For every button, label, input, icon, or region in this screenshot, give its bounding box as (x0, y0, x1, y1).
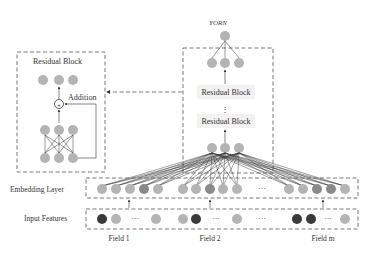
svg-text:+: + (57, 102, 61, 108)
node (38, 75, 48, 85)
residual-block-detail-title: Residual Block (33, 57, 82, 66)
svg-text:···: ··· (324, 214, 332, 223)
input-features-layer: Input Features ··· ··· ··· ··· (24, 209, 358, 229)
field-label: Field 1 (108, 234, 129, 243)
node (220, 58, 230, 68)
node (220, 143, 230, 153)
output-node (220, 31, 230, 41)
svg-text:···: ··· (212, 214, 220, 223)
input-features-label: Input Features (24, 214, 67, 223)
svg-text:Residual Block: Residual Block (201, 117, 250, 126)
node (40, 125, 50, 135)
node (68, 125, 78, 135)
main-stack: YORN Residual Block ⋮ Residual Block (183, 19, 273, 173)
node (207, 143, 217, 153)
field-label: Field m (311, 234, 334, 243)
embedding-layer-label: Embedding Layer (10, 185, 64, 194)
orn-architecture-diagram: Residual Block + Addition YORN (0, 0, 382, 257)
node (68, 75, 78, 85)
field-label: Field 2 (199, 234, 220, 243)
embedding-connections (102, 153, 345, 186)
stack-ellipsis: ⋮ (221, 105, 229, 114)
node (40, 153, 50, 163)
embedding-ellipsis: ··· (258, 184, 266, 193)
dense-connections (45, 135, 73, 153)
addition-label: Addition (68, 93, 96, 102)
output-label: YORN (209, 19, 227, 27)
node (234, 143, 244, 153)
svg-text:···: ··· (131, 214, 139, 223)
node (54, 125, 64, 135)
residual-block-detail: Residual Block + Addition (17, 52, 105, 172)
node (234, 58, 244, 68)
node (207, 58, 217, 68)
svg-text:Residual Block: Residual Block (201, 88, 250, 97)
svg-text:···: ··· (258, 214, 266, 223)
embedding-layer: Embedding Layer ··· (10, 178, 358, 198)
node (54, 75, 64, 85)
node (68, 153, 78, 163)
node (54, 153, 64, 163)
